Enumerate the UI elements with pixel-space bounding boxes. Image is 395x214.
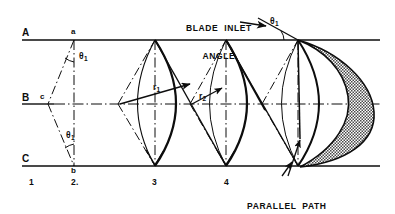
reference-line-label-a: A	[22, 28, 30, 39]
annotation-blade-inlet-angle: BLADE INLET ANGLE	[186, 6, 252, 79]
angle-label-theta1-inlet: θ1	[270, 17, 279, 27]
station-label-4: 4	[224, 178, 229, 187]
station-label-3: 3	[152, 178, 157, 187]
construction-triangles-station-1-2	[48, 40, 74, 166]
point-label-c: c	[40, 93, 45, 102]
annotation-blade-inlet-angle-line2: ANGLE	[186, 52, 252, 61]
figure-canvas: A B C a c b 1 2. 3 4 θ1 θ1 θ1 r1 r2 BLAD…	[0, 0, 395, 214]
radius-label-r1: r1	[153, 83, 161, 93]
point-label-a: a	[71, 28, 76, 37]
point-label-b: b	[71, 167, 76, 176]
reference-line-label-b: B	[22, 93, 30, 104]
leader-parallel-path	[282, 140, 300, 176]
station-tick-marks	[146, 150, 235, 165]
radius-label-r2: r2	[199, 92, 207, 102]
angle-label-theta1-upper: θ1	[79, 52, 88, 62]
station-label-1: 1	[29, 178, 34, 187]
annotation-parallel-path-line1: PARALLEL PATH	[247, 202, 340, 211]
station-label-2: 2.	[71, 178, 79, 187]
annotation-parallel-path: PARALLEL PATH THROUGH BLADING	[247, 184, 340, 214]
construction-arc-r1-station-3	[118, 40, 190, 166]
annotation-blade-inlet-angle-line1: BLADE INLET	[186, 24, 252, 33]
reference-line-label-c: C	[22, 154, 30, 165]
angle-label-theta1-lower: θ1	[66, 131, 75, 141]
